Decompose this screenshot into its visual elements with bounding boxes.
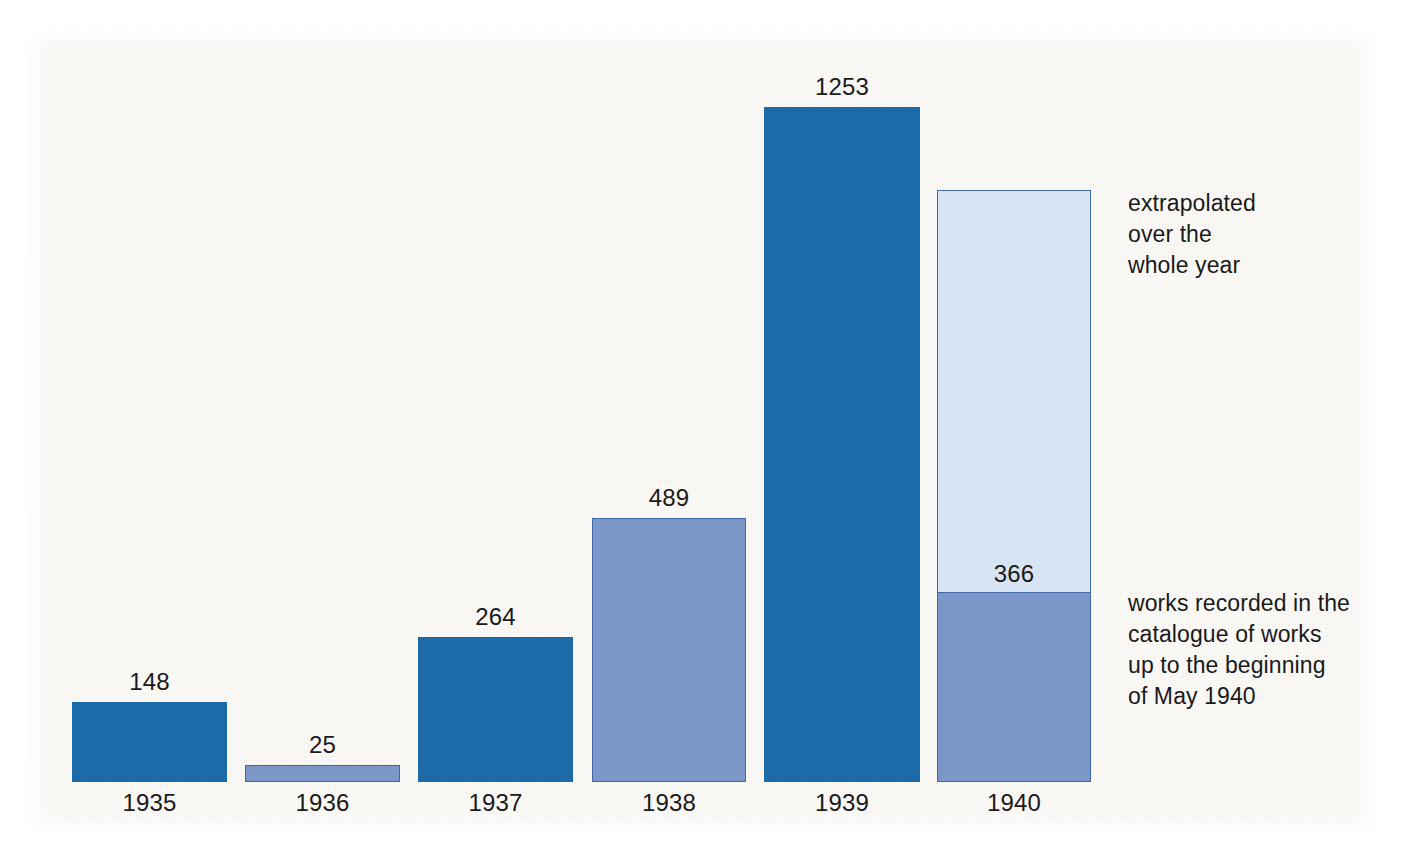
- value-label-1938: 489: [592, 484, 746, 512]
- bar-1935: [72, 702, 227, 782]
- value-label-1939: 1253: [764, 73, 920, 101]
- category-label-1938: 1938: [592, 789, 746, 817]
- category-label-1939: 1939: [764, 789, 920, 817]
- value-label-1940: 366: [937, 560, 1091, 588]
- category-label-1940: 1940: [937, 789, 1091, 817]
- annotation-extrapolated: extrapolated over the whole year: [1128, 188, 1378, 281]
- value-label-1937: 264: [418, 603, 573, 631]
- bar-1939: [764, 107, 920, 782]
- bar-1937: [418, 637, 573, 782]
- category-label-1936: 1936: [245, 789, 400, 817]
- bar-1936: [245, 765, 400, 782]
- value-label-1936: 25: [245, 731, 400, 759]
- category-label-1935: 1935: [72, 789, 227, 817]
- annotation-recorded: works recorded in the catalogue of works…: [1128, 588, 1393, 712]
- bar-1940-recorded-segment: [937, 592, 1091, 782]
- value-label-1935: 148: [72, 668, 227, 696]
- plot-area: 148 1935 25 1936 264 1937 489 1938 1253 …: [0, 0, 1405, 853]
- bar-1940-extrapolated-segment: [937, 190, 1091, 593]
- chart-figure: 148 1935 25 1936 264 1937 489 1938 1253 …: [0, 0, 1405, 853]
- category-label-1937: 1937: [418, 789, 573, 817]
- bar-1938: [592, 518, 746, 782]
